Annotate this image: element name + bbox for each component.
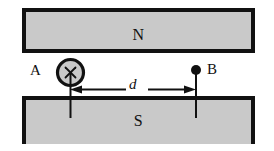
north-pole-bar: N [22, 8, 255, 53]
filled-dot-icon [191, 65, 201, 75]
dimension-label-d: d [129, 76, 137, 93]
south-pole-label: S [26, 112, 251, 130]
south-pole-bar: S [22, 96, 255, 144]
circled-cross-icon [55, 57, 86, 88]
point-a-label: A [30, 62, 41, 79]
north-pole-label: N [26, 26, 251, 44]
magnet-gap-figure: N S A B d [0, 0, 274, 151]
point-b-label: B [207, 61, 217, 78]
